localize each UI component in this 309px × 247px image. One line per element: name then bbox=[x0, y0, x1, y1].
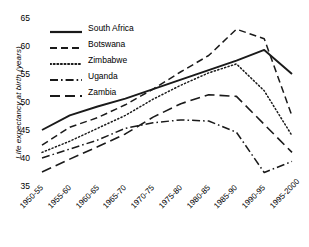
y-tick-label: 60 bbox=[4, 42, 30, 51]
y-tick-label: 40 bbox=[4, 154, 30, 163]
legend-swatch-icon bbox=[50, 39, 82, 49]
y-axis-ticks: 35404550556065 bbox=[2, 0, 30, 247]
legend-swatch-icon bbox=[50, 71, 82, 81]
line-chart: Life expectancy at birth (years) 3540455… bbox=[0, 0, 309, 247]
legend-item: Zambia bbox=[50, 84, 158, 100]
y-tick-label: 65 bbox=[4, 14, 30, 23]
x-axis-ticks: 1950-551955-601960-651965-701970-751975-… bbox=[34, 198, 302, 247]
y-tick-label: 35 bbox=[4, 182, 30, 191]
legend-swatch-icon bbox=[50, 23, 82, 33]
legend-item: Botswana bbox=[50, 36, 158, 52]
series-line bbox=[42, 120, 292, 173]
y-tick-label: 55 bbox=[4, 70, 30, 79]
y-tick-label: 45 bbox=[4, 126, 30, 135]
legend-label: South Africa bbox=[88, 23, 134, 33]
series-line bbox=[42, 95, 292, 172]
y-tick-label: 50 bbox=[4, 98, 30, 107]
chart-legend: South AfricaBotswanaZimbabweUgandaZambia bbox=[50, 20, 158, 100]
legend-item: Zimbabwe bbox=[50, 52, 158, 68]
legend-swatch-icon bbox=[50, 55, 82, 65]
legend-label: Zambia bbox=[88, 87, 116, 97]
legend-label: Zimbabwe bbox=[88, 55, 127, 65]
legend-swatch-icon bbox=[50, 87, 82, 97]
legend-label: Botswana bbox=[88, 39, 125, 49]
legend-item: Uganda bbox=[50, 68, 158, 84]
legend-label: Uganda bbox=[88, 71, 118, 81]
legend-item: South Africa bbox=[50, 20, 158, 36]
